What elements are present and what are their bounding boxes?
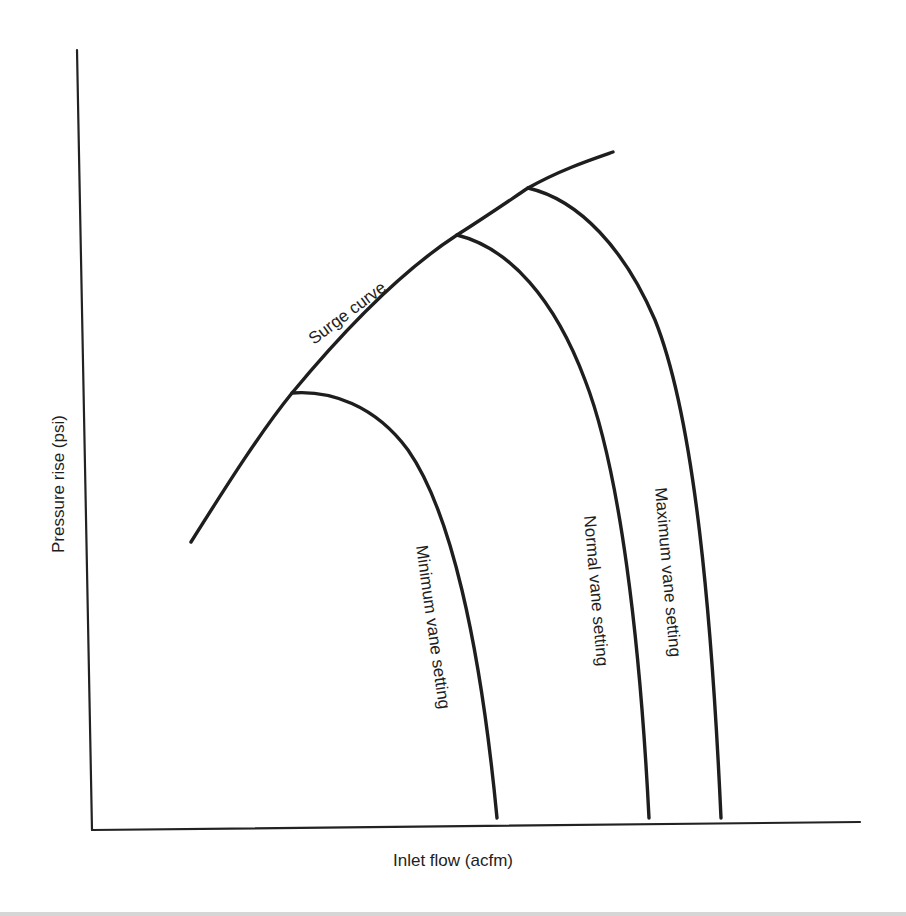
maximum-vane-curve: [528, 188, 721, 818]
minimum-vane-curve: [292, 393, 497, 818]
y-axis: [77, 50, 92, 830]
compressor-performance-chart: Surge curve Minimum vane setting Normal …: [0, 0, 906, 916]
surge-curve: [191, 152, 613, 542]
bottom-border: [0, 912, 906, 916]
x-axis: [92, 822, 860, 830]
surge-curve-label: Surge curve: [305, 278, 390, 348]
minimum-vane-label: Minimum vane setting: [412, 544, 454, 710]
normal-vane-label: Normal vane setting: [580, 515, 612, 667]
maximum-vane-label: Maximum vane setting: [651, 487, 685, 658]
x-axis-label: Inlet flow (acfm): [393, 851, 513, 870]
y-axis-label: Pressure rise (psi): [49, 415, 68, 553]
